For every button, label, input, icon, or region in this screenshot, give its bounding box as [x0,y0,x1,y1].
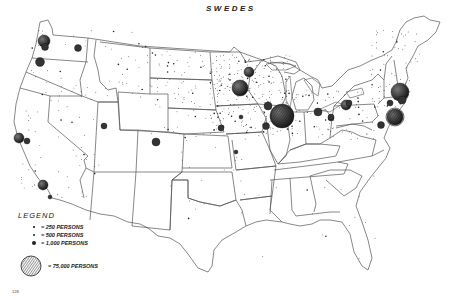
dot-250-icon [33,226,35,228]
legend-item-1000: = 1,000 PERSONS [30,239,98,247]
cluster-minneapolis-st-paul [232,80,248,96]
cluster-kansas-city [234,150,238,154]
cluster-philadelphia [378,122,385,129]
cluster-des-moines [239,115,243,119]
cluster-detroit [314,108,322,116]
cluster-providence [398,96,406,104]
legend-title: LEGEND [18,211,98,220]
cluster-buffalo [346,100,352,106]
cluster-duluth [244,67,254,77]
cluster-denver [152,138,160,146]
cluster-75000-chicago [271,105,293,127]
cluster-spokane [75,45,82,52]
dot-1000-icon [32,241,36,245]
legend-item-500: = 500 PERSONS [30,231,98,239]
hatched-sphere-icon [18,255,44,277]
cluster-rockford [264,102,272,110]
map-title: SWEDES [206,4,256,13]
legend: LEGEND = 250 PERSONS = 500 PERSONS = 1,0… [18,211,98,277]
dot-500-icon [33,234,36,237]
cluster-oakland [24,138,30,144]
cluster-portland [36,58,45,67]
cluster-salt-lake-city [101,123,107,129]
cluster-san-diego [48,195,52,199]
population-clusters [14,35,409,199]
cluster-pittsburgh [328,114,334,120]
page-number: 128 [12,289,19,294]
cluster-san-francisco [14,133,24,143]
cluster-omaha [218,125,224,131]
cluster-los-angeles [38,180,48,190]
legend-item-75000: = 75,000 PERSONS [18,255,98,277]
cluster-tacoma [42,44,49,51]
legend-item-250: = 250 PERSONS [30,223,98,231]
cluster-75000-nyc [386,108,404,126]
cluster-hartford [387,100,393,106]
cluster-moline [263,123,270,130]
